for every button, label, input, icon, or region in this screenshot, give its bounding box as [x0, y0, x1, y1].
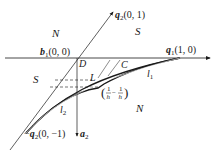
b1-label: b1(0, 0) — [40, 46, 70, 59]
vector-region-diagram: N S S N q2(0, 1) b1(0, 0) q1(1, 0) D C L… — [0, 0, 215, 152]
q1-label: q1(1, 0) — [166, 44, 196, 57]
a2-label: a2 — [80, 128, 89, 141]
point-label-d: D — [78, 58, 87, 69]
region-label-s-left: S — [33, 73, 39, 85]
q2-label: q2(0, 1) — [115, 9, 145, 22]
curve-label-l1: l1 — [147, 68, 154, 81]
svg-text:h: h — [107, 93, 111, 101]
region-label-n-top: N — [51, 27, 60, 39]
region-label-n-bottom: N — [135, 102, 144, 114]
h-point-label: ( 1 h − 1 h ) — [101, 85, 128, 101]
curve-label-l2: l2 — [60, 104, 67, 117]
svg-text:h: h — [119, 93, 123, 101]
hatch-line — [98, 60, 110, 78]
neg-q2-label: −q2(0, −1) — [24, 128, 65, 141]
svg-text:(: ( — [101, 85, 105, 100]
svg-text:−: − — [112, 89, 116, 97]
point-label-l: L — [89, 72, 96, 83]
svg-text:1: 1 — [107, 85, 111, 93]
point-label-c: C — [121, 59, 128, 70]
svg-text:): ) — [124, 85, 128, 100]
svg-text:1: 1 — [119, 85, 123, 93]
region-label-s-top: S — [135, 25, 141, 37]
